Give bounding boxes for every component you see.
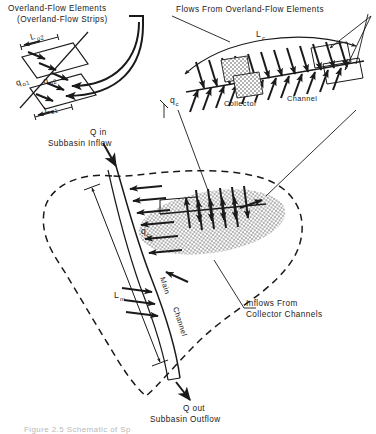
symbol-q-o1: q o1 — [14, 74, 31, 89]
collector-inflow-arrow — [216, 86, 224, 108]
overland-strip-lower — [30, 74, 96, 109]
collector-inflow-arrow — [300, 46, 308, 72]
figure-container: L o2 L o1 q o1 q o2 Ove — [0, 0, 376, 434]
collector-channel-group: L c — [160, 14, 371, 196]
main-inflow-arrow — [122, 288, 152, 292]
collector-inflow-arrow — [209, 60, 217, 86]
overland-title-bracket — [129, 16, 143, 27]
main-inflow-arrow — [130, 186, 162, 189]
subbasin-group: Q in Subbasin Inflow q c — [43, 110, 356, 424]
main-inflow-arrow — [124, 300, 155, 304]
collector-label: Collector — [224, 99, 257, 108]
collector-inflow-arrow — [294, 74, 302, 96]
symbol-L-m: L m — [114, 290, 125, 302]
inflows-line1: Inflows From — [246, 299, 298, 308]
symbol-q-c-basin-base: q — [141, 226, 146, 236]
collector-inflow-arrow — [287, 48, 295, 74]
q-c-leader-to-basin — [178, 110, 210, 196]
overland-strip-upper — [22, 43, 88, 78]
symbol-L-c-base: L — [256, 29, 261, 39]
inflows-line2: Collector Channels — [246, 310, 322, 319]
q-out-line1: Q out — [183, 404, 205, 413]
main-channel-label-main: Main — [158, 276, 172, 296]
inflows-leader — [214, 260, 244, 308]
main-channel-mouth — [168, 378, 180, 380]
collector-inflow-arrow — [203, 88, 211, 110]
collector-inflow-arrow — [261, 52, 269, 78]
main-channel-label-channel: Channel — [171, 306, 189, 338]
symbol-q-o2-sub: o2 — [49, 78, 58, 86]
symbol-L-o1: L o1 — [43, 102, 59, 117]
collector-junction-inflow-arrow — [166, 272, 188, 282]
flows-from-title: Flows From Overland-Flow Elements — [176, 5, 324, 14]
flows-from-leader-1 — [330, 16, 371, 48]
symbol-L-c-sub: c — [262, 35, 265, 41]
figure-caption: Figure 2.5 Schematic of Sp — [24, 425, 131, 434]
symbol-q-c-basin-sub: c — [147, 232, 150, 238]
q-out-line2: Subbasin Outflow — [150, 415, 221, 424]
symbol-q-c-top-sub: c — [176, 101, 179, 107]
flows-from-leader-3 — [356, 14, 368, 64]
collector-to-basin-leader — [266, 110, 356, 196]
collector-inflow-arrow — [268, 78, 276, 100]
overland-flow-arrow — [39, 63, 56, 70]
symbol-q-o1-sub: o1 — [21, 79, 30, 87]
subbasin-schematic-diagram: L o2 L o1 q o1 q o2 Ove — [0, 0, 376, 434]
symbol-L-o1-sub: o1 — [50, 107, 59, 115]
symbol-L-c: L c — [256, 29, 265, 41]
symbol-q-c-top-base: q — [170, 95, 175, 105]
q-out-arrow — [176, 382, 190, 400]
q-in-line2: Subbasin Inflow — [48, 139, 112, 148]
overland-flow-elements-group: L o2 L o1 q o1 q o2 — [14, 16, 143, 117]
symbol-L-m-base: L — [114, 290, 119, 300]
collector-title-leader — [172, 16, 230, 42]
collector-inflow-arrow — [307, 72, 315, 94]
symbol-q-c-top: q c — [170, 95, 179, 107]
main-channel-right-bank — [116, 166, 180, 378]
collector-inflow-arrow — [274, 50, 282, 76]
symbol-L-m-sub: m — [120, 296, 125, 302]
overland-title-line1: Overland-Flow Elements — [8, 4, 106, 13]
collector-inflow-arrow — [196, 62, 204, 88]
collector-strip-stippled-lower — [233, 72, 263, 98]
collector-inflow-arrow — [190, 90, 198, 112]
q-in-line1: Q in — [90, 128, 107, 137]
collector-inflow-arrow — [333, 68, 341, 90]
channel-label: Channel — [287, 94, 317, 103]
overland-title-line2: (Overland-Flow Strips) — [17, 15, 108, 24]
